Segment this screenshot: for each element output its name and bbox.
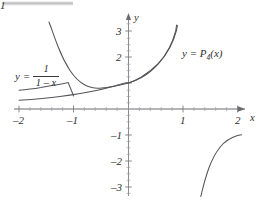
plot-canvas [0, 0, 264, 201]
hyperbola-label-denominator: 1 – x [34, 77, 58, 89]
curve-polynomial-p4 [49, 22, 177, 88]
x-tick-label-neg2: –2 [13, 115, 24, 126]
x-tick-label-pos2: 2 [235, 115, 241, 126]
x-tick-label-pos1: 1 [180, 115, 186, 126]
y-axis-label: y [134, 13, 139, 24]
y-tick-label-neg3: –3 [111, 182, 122, 193]
y-tick-label-pos2: 2 [116, 52, 122, 63]
y-tick-label-neg2: –2 [111, 156, 122, 167]
polynomial-label-suffix: (x) [210, 47, 222, 59]
y-tick-label-pos3: 3 [116, 26, 122, 37]
x-axis-label: x [250, 113, 255, 124]
hyperbola-curve-label: y = 1 1 – x [15, 64, 59, 88]
curve-hyperbola-right-branch [201, 135, 242, 197]
polynomial-label-prefix: y = P [182, 47, 207, 59]
y-axis [126, 13, 131, 196]
graph-figure: –2 –1 1 2 3 2 1 –1 –2 –3 x y y = 1 1 – x… [0, 0, 264, 201]
hyperbola-label-lhs: y = [15, 71, 30, 82]
y-tick-label-neg1: –1 [111, 130, 122, 141]
y-tick-label-pos1: 1 [0, 0, 6, 11]
hyperbola-label-fraction: 1 1 – x [33, 64, 59, 88]
hyperbola-label-numerator: 1 [41, 64, 50, 76]
x-tick-label-neg1: –1 [67, 115, 78, 126]
polynomial-curve-label: y = P4(x) [182, 48, 223, 62]
x-axis [14, 106, 245, 112]
